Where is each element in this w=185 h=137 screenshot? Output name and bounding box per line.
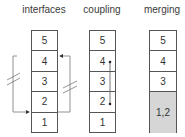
merging-layer-3: 3 [150,72,176,92]
interfaces-layer-2: 2 [32,92,57,112]
merging-stack: 5 4 3 1,2 [149,30,177,133]
interfaces-layer-4: 4 [32,51,57,71]
coupling-layer-5: 5 [90,31,115,51]
interfaces-layer-3: 3 [32,72,57,92]
interface-right-break-icon [63,81,77,93]
interfaces-title: interfaces [18,4,70,15]
interfaces-layer-5: 5 [32,31,57,51]
interface-right-arrow [58,56,70,112]
merging-layer-4: 4 [150,51,176,71]
coupling-stack: 5 4 3 2 1 [89,30,116,133]
interfaces-stack: 5 4 3 2 1 [31,30,58,133]
merging-layer-5: 5 [150,31,176,51]
merging-title: merging [136,4,185,15]
coupling-layer-1: 1 [90,113,115,133]
interface-left-break-icon [7,73,20,85]
interface-left-arrow [13,56,29,112]
coupling-layer-2: 2 [90,92,115,112]
interfaces-layer-1: 1 [32,113,57,133]
coupling-layer-4: 4 [90,51,115,71]
coupling-title: coupling [76,4,128,15]
coupling-layer-3: 3 [90,72,115,92]
merging-layer-1-2-merged: 1,2 [150,92,176,133]
